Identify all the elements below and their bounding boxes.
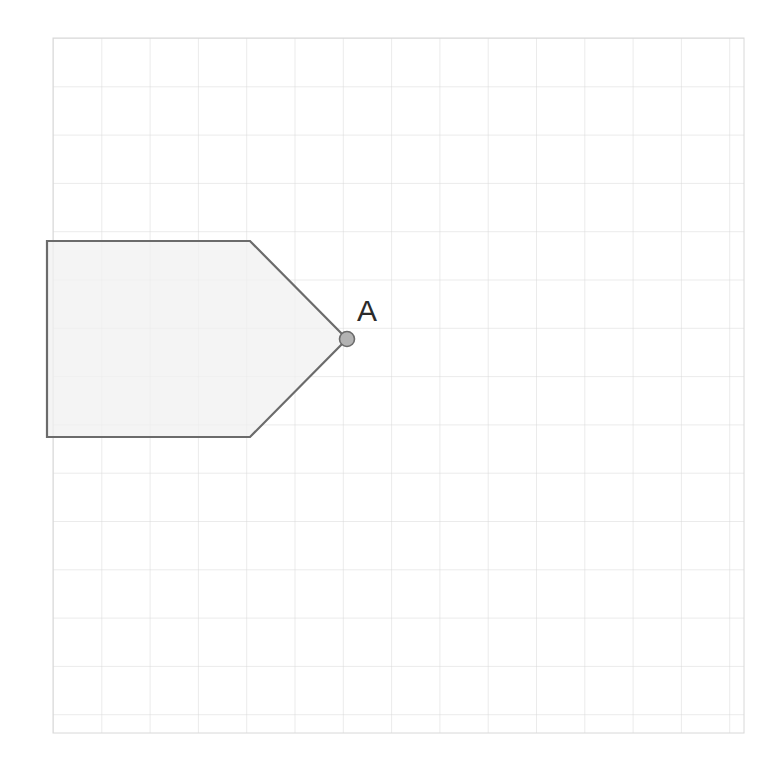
figure-canvas: A [0,0,784,771]
geometry-figure: A [0,0,784,771]
point-a-label: A [357,294,377,327]
point-a-dot[interactable] [340,332,355,347]
